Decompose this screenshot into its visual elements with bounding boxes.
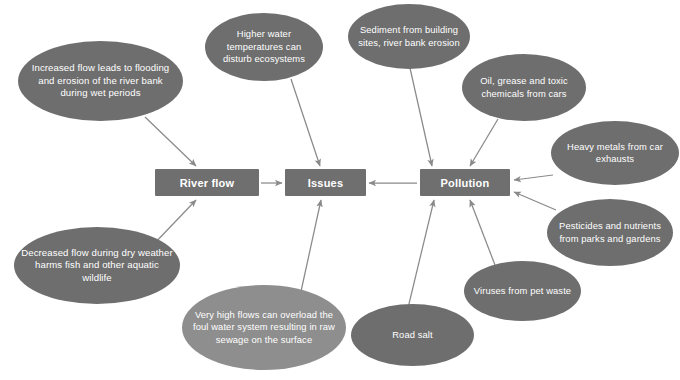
node-viruses[interactable]: Viruses from pet waste [464,261,581,321]
connector-arrow [470,119,498,166]
node-pesticides[interactable]: Pesticides and nutrients from parks and … [547,199,673,266]
node-label: Oil, grease and toxic chemicals from car… [462,75,586,100]
box-label: River flow [180,177,235,189]
node-label: Heavy metals from car exhausts [551,141,679,166]
connector-arrow [410,68,432,166]
box-river-flow[interactable]: River flow [155,169,259,196]
node-decreased-flow[interactable]: Decreased flow during dry weather harms … [14,227,180,304]
box-label: Issues [308,177,343,189]
node-label: Viruses from pet waste [468,285,577,297]
box-label: Pollution [441,177,490,189]
node-label: Sediment from building sites, river bank… [348,24,470,49]
box-issues[interactable]: Issues [285,169,366,196]
node-increased-flow[interactable]: Increased flow leads to flooding and ero… [18,41,183,121]
node-label: Very high flows can overload the foul wa… [182,309,346,346]
node-very-high-flows[interactable]: Very high flows can overload the foul wa… [182,285,346,370]
node-label: Road salt [386,329,439,341]
box-pollution[interactable]: Pollution [420,169,510,196]
node-label: Decreased flow during dry weather harms … [14,247,180,285]
node-oil-grease[interactable]: Oil, grease and toxic chemicals from car… [462,54,586,121]
connector-arrow [300,200,321,296]
node-label: Increased flow leads to flooding and ero… [18,62,183,100]
node-label: Higher water temperatures can disturb ec… [205,28,323,65]
node-sediment[interactable]: Sediment from building sites, river bank… [348,4,470,69]
node-higher-water-temperatures[interactable]: Higher water temperatures can disturb ec… [205,13,323,81]
node-label: Pesticides and nutrients from parks and … [547,220,673,245]
connector-arrow [291,79,320,166]
connector-arrow [514,175,553,180]
connector-arrow [514,192,556,210]
connector-arrow [408,200,434,308]
node-heavy-metals[interactable]: Heavy metals from car exhausts [551,121,679,185]
connector-arrow [145,117,196,166]
node-road-salt[interactable]: Road salt [351,304,474,366]
connector-arrow [470,200,495,265]
